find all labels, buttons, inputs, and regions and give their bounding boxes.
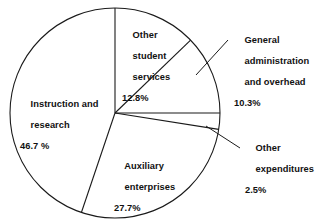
slice-label-line-1: Instruction and bbox=[31, 99, 99, 109]
slice-label-line-2: administration bbox=[245, 56, 310, 66]
slice-label-line-2: student bbox=[133, 51, 167, 61]
slice-label-line-1: Other bbox=[256, 143, 281, 153]
slice-label-line-3: services bbox=[133, 72, 171, 82]
slice-label-other-student-services: Other student services 12.8% bbox=[122, 19, 170, 125]
slice-label-auxiliary-enterprises: Auxiliary enterprises 27.7% bbox=[114, 150, 175, 223]
slice-value-auxiliary-enterprises: 27.7% bbox=[114, 203, 175, 214]
slice-label-general-administration: General administration and overhead 10.3… bbox=[234, 24, 309, 130]
leader-line-general-administration bbox=[196, 40, 228, 75]
slice-value-general-administration: 10.3% bbox=[234, 98, 309, 109]
slice-label-line-1: General bbox=[245, 35, 280, 45]
slice-label-line-2: expenditures bbox=[256, 164, 314, 174]
slice-label-instruction-research: Instruction and research 46.7 % bbox=[20, 88, 98, 173]
slice-value-instruction-research: 46.7 % bbox=[20, 141, 98, 152]
slice-value-other-expenditures: 2.5% bbox=[245, 185, 314, 196]
slice-label-other-expenditures: Other expenditures 2.5% bbox=[245, 132, 314, 217]
slice-label-line-2: research bbox=[31, 120, 70, 130]
slice-value-other-student-services: 12.8% bbox=[122, 93, 170, 104]
slice-label-line-1: Other bbox=[133, 30, 158, 40]
slice-label-line-2: enterprises bbox=[125, 182, 176, 192]
pie-chart-figure: Other student services 12.8% General adm… bbox=[0, 0, 319, 223]
slice-label-line-1: Auxiliary bbox=[124, 161, 164, 171]
slice-label-line-3: and overhead bbox=[245, 77, 306, 87]
